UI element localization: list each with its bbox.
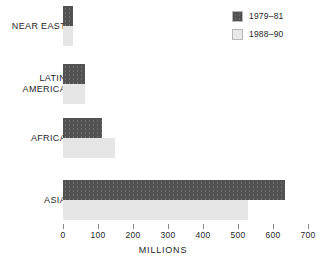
axis-tick — [203, 224, 204, 229]
plot-area: NEAR EASTLATINAMERICAAFRICAASIA — [0, 0, 326, 224]
row-label-latin-america: LATINAMERICA — [0, 73, 66, 95]
row-label-line: AMERICA — [0, 84, 66, 95]
bar-group — [63, 6, 73, 46]
bar-africa-series-1 — [63, 118, 102, 138]
axis-tick-label: 700 — [288, 230, 326, 240]
row-label-africa: AFRICA — [0, 133, 66, 144]
chart-row: LATINAMERICA — [0, 64, 326, 104]
row-label-line: LATIN — [0, 73, 66, 84]
axis-tick — [238, 224, 239, 229]
axis-tick-label: 300 — [148, 230, 188, 240]
bar-group — [63, 180, 285, 220]
axis-tick-label: 0 — [43, 230, 83, 240]
bar-latin-america-series-1 — [63, 64, 85, 84]
bar-asia-series-1 — [63, 180, 285, 200]
row-label-asia: ASIA — [0, 195, 66, 206]
bar-group — [63, 118, 115, 158]
axis-tick — [308, 224, 309, 229]
axis-tick — [63, 224, 64, 229]
chart-row: AFRICA — [0, 118, 326, 158]
bar-near-east-series-1 — [63, 6, 73, 26]
axis-tick-label: 100 — [78, 230, 118, 240]
bar-latin-america-series-2 — [63, 84, 85, 104]
chart-row: NEAR EAST — [0, 6, 326, 46]
bar-asia-series-2 — [63, 200, 248, 220]
axis-tick-label: 600 — [253, 230, 293, 240]
row-label-near-east: NEAR EAST — [0, 21, 66, 32]
bar-chart: 1979–81 1988–90 NEAR EASTLATINAMERICAAFR… — [0, 0, 326, 260]
axis-tick — [133, 224, 134, 229]
axis-tick-label: 500 — [218, 230, 258, 240]
axis-tick-label: 400 — [183, 230, 223, 240]
x-axis-title: MILLIONS — [0, 245, 326, 255]
bar-group — [63, 64, 85, 104]
axis-tick — [98, 224, 99, 229]
bar-africa-series-2 — [63, 138, 115, 158]
axis-tick — [273, 224, 274, 229]
axis-tick — [168, 224, 169, 229]
x-axis: MILLIONS 0100200300400500600700 — [0, 224, 326, 260]
axis-tick-label: 200 — [113, 230, 153, 240]
chart-row: ASIA — [0, 180, 326, 220]
bar-near-east-series-2 — [63, 26, 73, 46]
